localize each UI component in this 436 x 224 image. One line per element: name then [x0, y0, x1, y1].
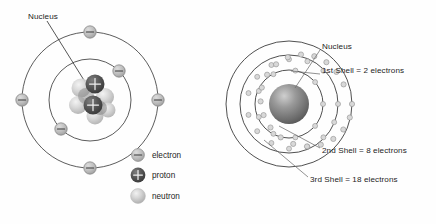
legend-group: electron proton neutron — [131, 149, 182, 204]
legend-item-proton: proton — [131, 168, 176, 183]
legend-item-neutron: neutron — [131, 189, 181, 204]
electron-particle — [84, 26, 96, 38]
second-shell-leader-line — [279, 126, 320, 148]
legend-item-electron: electron — [132, 149, 182, 162]
electron-particle — [152, 94, 164, 106]
electron-particle — [84, 162, 96, 174]
electron-particle — [113, 65, 125, 77]
electron-particle — [16, 94, 28, 106]
legend-label-neutron: neutron — [152, 192, 180, 201]
right-third-shell-label: 3rd Shell = 18 electrons — [310, 175, 398, 184]
atom-diagram-svg: Nucleus electron proton neutron — [0, 0, 436, 224]
right-second-shell-label: 2nd Shell = 8 electrons — [322, 146, 407, 155]
electron-particle — [55, 123, 67, 135]
diagram-canvas: Nucleus electron proton neutron — [0, 0, 436, 224]
neutron-icon — [131, 189, 146, 204]
left-nucleus-cluster — [69, 75, 116, 125]
right-nucleus-label: Nucleus — [322, 42, 352, 51]
legend-label-electron: electron — [152, 151, 182, 160]
nucleus-callout-line — [47, 21, 87, 85]
legend-label-proton: proton — [152, 171, 176, 180]
right-nucleus-sphere — [269, 84, 309, 124]
left-nucleus-label: Nucleus — [28, 12, 58, 21]
third-shell-leader-line — [264, 140, 308, 177]
right-atom-group: Nucleus 1st Shell = 2 electrons 2nd Shel… — [226, 41, 407, 184]
right-first-shell-label: 1st Shell = 2 electrons — [322, 66, 404, 75]
